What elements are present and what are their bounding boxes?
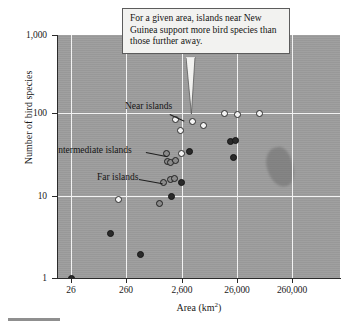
data-point-far (168, 193, 175, 200)
y-tick-label-1: 1 (3, 273, 47, 283)
x-axis-title-text: Area (km (177, 302, 215, 313)
gridline-x-260000 (292, 35, 293, 278)
data-point-near (189, 118, 196, 125)
x-axis-line (57, 278, 341, 279)
y-axis-title: Number of bird species (23, 18, 34, 218)
leader-line-far (139, 179, 163, 184)
gridline-x-260 (126, 35, 127, 278)
gridline-x-26 (71, 35, 72, 278)
data-point-intermediate (171, 175, 178, 182)
x-axis-title-suffix: ) (218, 302, 221, 313)
x-tick-260000 (292, 278, 293, 283)
data-point-far (107, 230, 114, 237)
gridline-x-26000 (237, 35, 238, 278)
callout-annotation: For a given area, islands near New Guine… (122, 8, 290, 54)
figure-caption-rule (8, 318, 60, 321)
x-tick-26 (71, 278, 72, 283)
data-point-far (178, 179, 185, 186)
data-point-intermediate (156, 200, 163, 207)
data-point-near (200, 122, 207, 129)
x-tick-2600 (182, 278, 183, 283)
y-tick-100 (52, 113, 57, 114)
x-tick-label-260000: 260,000 (257, 285, 327, 296)
data-point-far (137, 251, 144, 258)
figure-scatter-island-biogeography: Near islands Intermediate islands Far is… (0, 0, 352, 326)
data-point-intermediate (172, 157, 179, 164)
y-tick-1 (52, 278, 57, 279)
data-point-far (232, 137, 239, 144)
data-point-near (177, 127, 184, 134)
gridline-y-100 (57, 113, 340, 114)
series-label-far: Far islands (97, 172, 138, 183)
gridline-y-10 (57, 196, 340, 197)
plot-area: Near islands Intermediate islands Far is… (57, 35, 340, 278)
x-tick-260 (126, 278, 127, 283)
y-tick-10 (52, 196, 57, 197)
data-point-far (186, 148, 193, 155)
data-point-near (115, 196, 122, 203)
x-axis-title: Area (km2) (57, 301, 341, 313)
series-label-near: Near islands (125, 101, 172, 112)
data-point-near (178, 150, 185, 157)
series-label-intermediate: Intermediate islands (57, 145, 132, 156)
x-tick-26000 (237, 278, 238, 283)
plot-background-texture (57, 35, 340, 278)
y-axis-line (57, 35, 58, 279)
data-point-near (234, 111, 241, 118)
y-tick-1000 (52, 35, 57, 36)
gridline-x-2600 (182, 35, 183, 278)
data-point-far (230, 154, 237, 161)
data-point-near (221, 110, 228, 117)
callout-tail (186, 57, 196, 114)
data-point-near (256, 110, 263, 117)
